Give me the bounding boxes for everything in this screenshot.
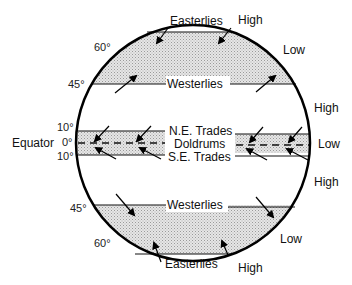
label-doldrums: Doldrums (174, 137, 225, 151)
pressure-equatorial-low: Low (318, 137, 340, 151)
lat-south-60: 60° (94, 237, 111, 249)
pressure-south-polar-high: High (238, 261, 263, 275)
label-se-trades: S.E. Trades (168, 150, 231, 164)
label-north-westerlies: Westerlies (167, 77, 223, 91)
lat-north-60: 60° (94, 41, 111, 53)
lat-north-45: 45° (68, 78, 85, 90)
lat-north-10: 10° (57, 121, 74, 133)
label-ne-trades: N.E. Trades (169, 124, 232, 138)
pressure-north-subtropical-high: High (314, 101, 339, 115)
label-south-westerlies: Westerlies (167, 198, 223, 212)
label-south-easterlies: Easterlies (165, 257, 218, 271)
lat-south-10: 10° (57, 150, 74, 162)
lat-equator-0: 0° (62, 136, 73, 148)
pressure-south-subpolar-low: Low (280, 232, 302, 246)
trades-band-right (234, 134, 314, 153)
pressure-north-polar-high: High (238, 13, 263, 27)
equator-label: Equator (12, 136, 54, 150)
lat-south-45: 45° (70, 202, 87, 214)
wind-belt-diagram: 60° 45° 10° 0° 10° 45° 60° Equator Easte… (0, 0, 352, 285)
pressure-north-subpolar-low: Low (283, 43, 305, 57)
label-north-easterlies: Easterlies (170, 14, 223, 28)
pressure-south-subtropical-high: High (314, 175, 339, 189)
